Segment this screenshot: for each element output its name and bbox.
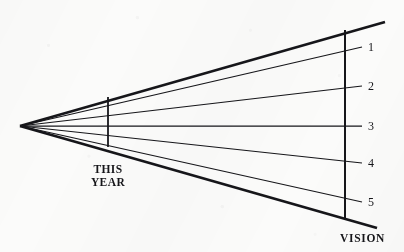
this-year-label: THIS YEAR (76, 163, 140, 189)
ray-5 (20, 126, 362, 202)
ray-number-4: 4 (368, 156, 374, 171)
ray-number-1: 1 (368, 40, 374, 55)
lower-boundary (20, 126, 377, 228)
ray-1 (20, 47, 362, 126)
ray-number-5: 5 (368, 195, 374, 210)
ray-number-2: 2 (368, 79, 374, 94)
ray-2 (20, 86, 362, 126)
upper-boundary (20, 22, 385, 126)
ray-4 (20, 126, 362, 163)
vision-label: VISION (340, 232, 385, 245)
ray-number-3: 3 (368, 119, 374, 134)
vision-fan-diagram (0, 0, 404, 252)
ray-group (20, 22, 385, 228)
